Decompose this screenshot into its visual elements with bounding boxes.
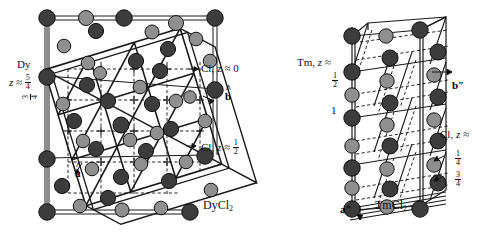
fraction-denominator: 4 xyxy=(31,94,39,100)
fraction-denominator: 4 xyxy=(455,180,461,188)
right-cation-label: Tm, z ≈ xyxy=(297,57,331,68)
fraction-denominator: 2 xyxy=(332,81,338,89)
right-cation-z-prefix: z ≈ xyxy=(318,56,331,68)
right-anion-fraction-2-wrap: 3 4 xyxy=(455,171,461,190)
right-anion-prefix: Cl, xyxy=(440,128,453,140)
fraction-denominator: 4 xyxy=(455,159,461,167)
right-cation-z-fraction-1-wrap: 1 2 xyxy=(332,72,338,91)
left-anion-bottom-z-prefix: z ≈ xyxy=(217,141,230,153)
left-anion-bottom-prefix: Cl, xyxy=(201,141,214,153)
left-anion-bottom-label: Cl, z ≈ 1 2 xyxy=(201,139,239,156)
left-cation-label: Dy xyxy=(17,59,30,70)
left-anion-top-label: Cl, z ≈ 0 xyxy=(201,63,239,74)
right-anion-z-fraction-2: 3 4 xyxy=(455,171,461,188)
right-cation-prefix: Tm, xyxy=(297,56,315,68)
a-double-prime-axis-label: a″ xyxy=(340,203,352,215)
a-hat-letter: a xyxy=(75,167,81,179)
left-cation-z-fraction-1: 5 4 xyxy=(25,74,31,91)
fraction-denominator: 2 xyxy=(233,148,239,156)
right-cation-z-value-2: 1 xyxy=(331,105,337,116)
left-compound-subscript: 2 xyxy=(229,204,233,213)
left-cation-z-label: z ≈ 5 4 xyxy=(9,74,31,91)
crystal-structure-figure: Dy z ≈ 5 4 3 4 Cl, z ≈ 0 b Cl, z ≈ 1 2 a… xyxy=(0,0,481,239)
left-anion-bottom-fraction: 1 2 xyxy=(233,139,239,156)
right-anion-z-prefix: z ≈ xyxy=(456,128,469,140)
b-hat-letter: b xyxy=(225,90,231,102)
right-compound-formula: TmCl2 xyxy=(375,199,407,213)
left-compound-formula: DyCl2 xyxy=(203,199,233,213)
left-cation-z-fraction-2: 3 4 xyxy=(22,94,39,100)
fraction-denominator: 4 xyxy=(25,83,31,91)
left-compound-text: DyCl xyxy=(203,198,229,212)
b-double-prime-axis-label: b″ xyxy=(452,79,464,91)
right-compound-text: TmCl xyxy=(375,198,403,212)
a-hat-axis-label: a xyxy=(75,167,81,179)
right-cation-z-fraction-1: 1 2 xyxy=(332,72,338,89)
left-cation-z-prefix: z ≈ xyxy=(9,76,22,88)
structure-drawing xyxy=(0,0,481,239)
right-anion-z-fraction-1: 1 4 xyxy=(455,150,461,167)
right-anion-label: Cl, z ≈ xyxy=(440,129,469,140)
b-hat-axis-label: b xyxy=(225,90,231,102)
right-anion-fraction-1-wrap: 1 4 xyxy=(455,150,461,169)
right-compound-subscript: 2 xyxy=(403,204,407,213)
